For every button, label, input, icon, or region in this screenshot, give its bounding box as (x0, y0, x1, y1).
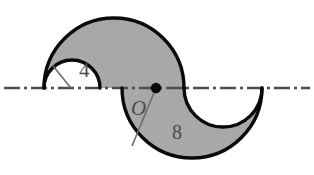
center-point-dot (151, 83, 161, 93)
small-radius-label: 4 (79, 58, 90, 82)
geometry-figure: 4 8 O (0, 0, 314, 175)
large-radius-label: 8 (172, 121, 182, 143)
figure-canvas: 4 8 O (0, 0, 314, 175)
center-point-label: O (131, 96, 146, 120)
